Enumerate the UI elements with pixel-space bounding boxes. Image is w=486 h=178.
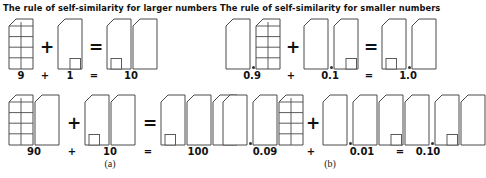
operator-equals: = [364, 39, 378, 56]
label-operator-equals: = [396, 146, 404, 157]
label-term-90: 90 [27, 146, 41, 157]
solid-block-icon [34, 94, 60, 146]
label-operator-equals: = [144, 146, 152, 157]
label-operator-equals: = [365, 70, 373, 81]
operator-plus: + [286, 39, 300, 56]
term-0.1-shape [303, 18, 359, 70]
label-term-100: 100 [188, 146, 209, 157]
label-operator-plus: + [307, 146, 315, 157]
operator-plus: + [40, 39, 54, 56]
label-term-0.09: 0.09 [253, 146, 278, 157]
equation-9-plus-1-shapes: + = [0, 14, 220, 70]
equation-0.09-plus-0.01-shapes: + [220, 90, 440, 146]
label-term-1.0: 1.0 [399, 70, 417, 81]
term-1.0-shape [381, 18, 437, 70]
grid-block-icon [278, 94, 304, 146]
operator-plus: + [67, 115, 81, 132]
equation-9-plus-1-labels: 9 + 1 = 10 [0, 70, 220, 86]
solid-block-icon [132, 18, 158, 70]
term-10-shape [84, 94, 136, 146]
solid-block-icon [460, 94, 486, 146]
term-90-shape [8, 94, 60, 146]
unit-block-icon [160, 94, 186, 146]
solid-block-icon [303, 18, 329, 70]
unit-block-icon [57, 18, 83, 70]
solid-block-icon [186, 94, 212, 146]
term-9-shape [8, 18, 34, 70]
solid-block-icon [322, 94, 348, 146]
label-term-0.1: 0.1 [321, 70, 339, 81]
label-term-10: 10 [103, 146, 117, 157]
unit-block-icon [84, 94, 110, 146]
label-term-0.01: 0.01 [350, 146, 375, 157]
term-0.09-shape [222, 94, 304, 146]
term-0.10-shape [404, 94, 486, 146]
label-term-1: 1 [67, 70, 74, 81]
term-1-shape [57, 18, 83, 70]
label-term-0.9: 0.9 [243, 70, 261, 81]
label-operator-plus: + [68, 146, 76, 157]
unit-block-icon [434, 94, 460, 146]
operator-equals: = [143, 115, 157, 132]
grid-block-icon [8, 18, 34, 70]
operator-plus: + [306, 115, 320, 132]
unit-block-icon [333, 18, 359, 70]
solid-block-icon [381, 18, 407, 70]
solid-block-icon [411, 18, 437, 70]
solid-block-icon [222, 94, 248, 146]
solid-block-icon [110, 94, 136, 146]
label-term-10: 10 [124, 70, 138, 81]
panel-heading-larger: The rule of self-similarity for larger n… [0, 3, 220, 13]
label-operator-plus: + [41, 70, 49, 81]
term-10-shape [106, 18, 158, 70]
operator-equals: = [89, 39, 103, 56]
label-term-9: 9 [18, 70, 25, 81]
equation-0.9-plus-0.1-labels: 0.9 + 0.1 = 1.0 [220, 70, 440, 86]
label-operator-equals: = [90, 70, 98, 81]
equation-0.9-plus-0.1-shapes: + = [220, 14, 440, 70]
panel-larger-numbers: The rule of self-similarity for larger n… [0, 0, 220, 178]
unit-block-icon [106, 18, 132, 70]
solid-block-icon [404, 94, 430, 146]
grid-block-icon [255, 18, 281, 70]
equation-90-plus-10-shapes: + = [0, 90, 220, 146]
panel-smaller-numbers: The rule of self-similarity for smaller … [220, 0, 440, 178]
panel-heading-smaller: The rule of self-similarity for smaller … [220, 3, 440, 13]
caption-a: (a) [0, 158, 220, 169]
grid-block-icon [8, 94, 34, 146]
unit-block-icon [378, 94, 404, 146]
term-0.01-shape [322, 94, 404, 146]
label-term-0.10: 0.10 [416, 146, 441, 157]
solid-block-icon [352, 94, 378, 146]
equation-0.9-plus-0.1: + = [220, 14, 440, 88]
equation-0.09-plus-0.01: + [220, 90, 440, 164]
caption-b: (b) [220, 158, 440, 169]
solid-block-icon [225, 18, 251, 70]
equation-9-plus-1: + = [0, 14, 220, 88]
solid-block-icon [252, 94, 278, 146]
equation-90-plus-10: + = [0, 90, 220, 164]
term-0.9-shape [225, 18, 281, 70]
label-operator-plus: + [287, 70, 295, 81]
